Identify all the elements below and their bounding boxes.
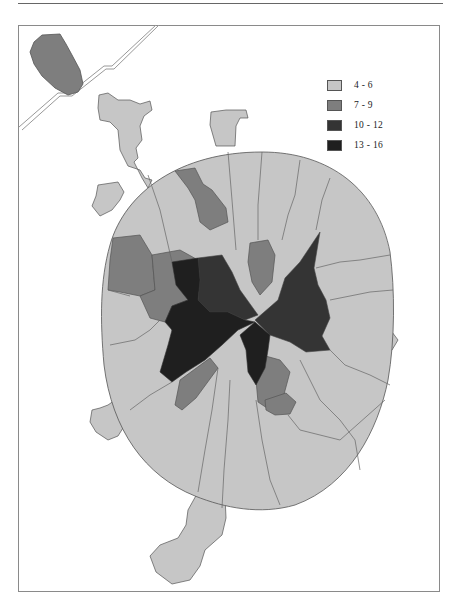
inset-territory [30,34,83,95]
legend-swatch [327,100,342,111]
legend-swatch [327,140,342,151]
legend-item: 7 - 9 [327,95,383,115]
legend-item: 13 - 16 [327,135,383,155]
legend-item: 4 - 6 [327,75,383,95]
legend-label: 7 - 9 [354,100,373,110]
legend-label: 13 - 16 [354,140,383,150]
legend: 4 - 6 7 - 9 10 - 12 13 - 16 [327,75,383,155]
legend-label: 10 - 12 [354,120,383,130]
choropleth-map [0,0,461,612]
legend-swatch [327,80,342,91]
legend-label: 4 - 6 [354,80,373,90]
legend-swatch [327,120,342,131]
legend-item: 10 - 12 [327,115,383,135]
